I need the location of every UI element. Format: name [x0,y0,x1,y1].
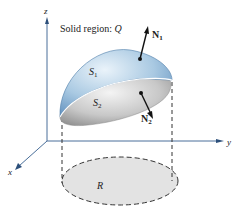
region-r-label: R [96,180,103,191]
y-axis-arrow-icon [216,139,224,143]
n1-label: N1 [152,29,163,42]
y-axis-label: y [226,137,231,147]
z-axis-label: z [43,6,48,16]
diagram-canvas: z y x Solid region: Q S1 S2 N1 N2 R [0,0,236,211]
x-axis [19,141,47,166]
solid-region-title: Solid region: Q [60,23,122,34]
solid-region-diagram: z y x Solid region: Q S1 S2 N1 N2 R [0,0,236,211]
z-axis-arrow-icon [45,17,49,24]
region-r-ellipse [62,157,178,205]
x-axis-label: x [7,167,12,177]
n1-arrow-icon [144,26,149,34]
